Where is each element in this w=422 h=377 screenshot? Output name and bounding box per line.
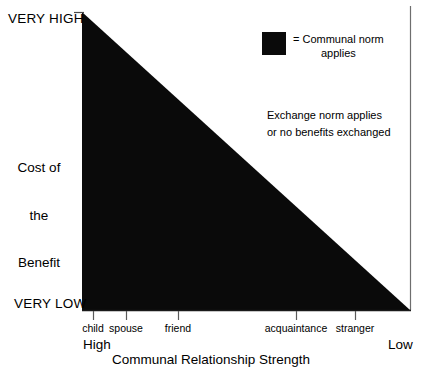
y-axis-title: Cost of the Benefit: [0, 128, 78, 303]
y-axis-title-line-1: Cost of: [0, 160, 78, 176]
y-axis-title-line-3: Benefit: [0, 255, 78, 271]
legend-label: = Communal norm applies: [293, 33, 384, 61]
x-axis-ticks: [94, 311, 356, 320]
x-axis-left-label: High: [83, 337, 111, 353]
tick-label-stranger: stranger: [336, 322, 375, 334]
x-axis-title: Communal Relationship Strength: [0, 352, 422, 368]
exchange-norm-line-1: Exchange norm applies: [267, 107, 391, 124]
exchange-norm-annotation: Exchange norm applies or no benefits exc…: [267, 107, 391, 141]
tick-label-friend: friend: [165, 322, 191, 334]
y-axis-max-label: VERY HIGH: [8, 11, 84, 27]
y-axis-title-line-2: the: [0, 208, 78, 224]
tick-label-child: child: [82, 322, 104, 334]
legend-label-line-2: applies: [293, 47, 384, 61]
legend-label-line-1: = Communal norm: [293, 33, 384, 47]
tick-label-spouse: spouse: [109, 322, 143, 334]
communal-norm-chart: VERY HIGH VERY LOW Cost of the Benefit c…: [0, 0, 422, 377]
legend-swatch-communal-norm: [262, 32, 286, 55]
tick-label-acquaintance: acquaintance: [265, 322, 327, 334]
x-axis-right-label: Low: [388, 337, 413, 353]
exchange-norm-line-2: or no benefits exchanged: [267, 124, 391, 141]
